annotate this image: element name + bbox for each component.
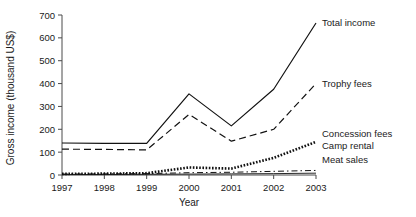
legend-label: Concession fees (322, 128, 392, 139)
chart-svg: 0100200300400500600700 19971998199920002… (0, 0, 416, 217)
series-line (62, 142, 316, 174)
x-axis-title: Year (179, 197, 200, 208)
y-axis-title: Gross income (thousand US$) (5, 31, 16, 166)
x-tick-label: 2000 (178, 182, 199, 193)
y-tick-label: 0 (50, 170, 55, 181)
y-tick-label: 500 (39, 55, 55, 66)
series-line (62, 173, 316, 174)
x-tick-label: 2002 (263, 182, 284, 193)
y-tick-label: 200 (39, 124, 55, 135)
x-tick-label: 2003 (305, 182, 326, 193)
y-axis-ticks: 0100200300400500600700 (39, 10, 62, 181)
y-tick-label: 700 (39, 10, 55, 21)
y-tick-label: 100 (39, 147, 55, 158)
chart-legend: Total incomeTrophy feesConcession feesCa… (322, 17, 392, 165)
y-tick-label: 600 (39, 32, 55, 43)
y-tick-label: 300 (39, 101, 55, 112)
series-line (62, 23, 316, 143)
x-tick-label: 1999 (136, 182, 157, 193)
line-chart: 0100200300400500600700 19971998199920002… (0, 0, 416, 217)
series-layer (62, 23, 316, 175)
x-tick-label: 1997 (51, 182, 72, 193)
legend-label: Meat sales (322, 154, 368, 165)
x-tick-label: 1998 (94, 182, 115, 193)
x-tick-label: 2001 (221, 182, 242, 193)
legend-label: Trophy fees (322, 78, 372, 89)
y-tick-label: 400 (39, 78, 55, 89)
x-axis-ticks: 1997199819992000200120022003 (51, 175, 326, 193)
legend-label: Camp rental (322, 140, 374, 151)
legend-label: Total income (322, 17, 375, 28)
